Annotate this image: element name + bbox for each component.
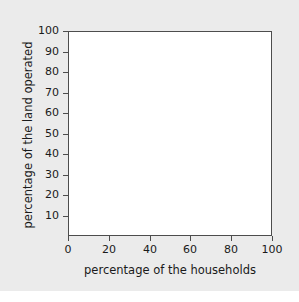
y-tick-mark xyxy=(63,113,68,114)
x-tick-label: 20 xyxy=(89,244,129,255)
chart-figure: 102030405060708090100 020406080100 perce… xyxy=(0,0,299,302)
x-tick-label: 100 xyxy=(252,244,292,255)
y-tick-mark xyxy=(63,93,68,94)
plot-area xyxy=(68,31,272,236)
x-tick-mark xyxy=(272,236,273,241)
y-tick-mark xyxy=(63,52,68,53)
x-tick-label: 0 xyxy=(48,244,88,255)
y-tick-mark xyxy=(63,72,68,73)
x-tick-mark xyxy=(231,236,232,241)
x-tick-mark xyxy=(68,236,69,241)
y-tick-mark xyxy=(63,175,68,176)
x-tick-mark xyxy=(190,236,191,241)
y-tick-mark xyxy=(63,154,68,155)
x-tick-label: 40 xyxy=(130,244,170,255)
x-axis-title: percentage of the households xyxy=(68,263,272,277)
y-axis-title: percentage of the land operated xyxy=(21,33,35,238)
y-tick-mark xyxy=(63,216,68,217)
x-tick-mark xyxy=(150,236,151,241)
y-tick-mark xyxy=(63,31,68,32)
x-tick-label: 60 xyxy=(170,244,210,255)
y-tick-mark xyxy=(63,134,68,135)
x-tick-mark xyxy=(109,236,110,241)
x-tick-label: 80 xyxy=(211,244,251,255)
y-tick-mark xyxy=(63,195,68,196)
